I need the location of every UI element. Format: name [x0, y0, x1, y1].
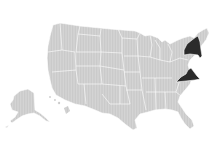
state-alaska [10, 89, 50, 123]
alaska-aleutians [5, 125, 9, 128]
us-map-svg [0, 0, 212, 147]
us-map [0, 0, 212, 147]
